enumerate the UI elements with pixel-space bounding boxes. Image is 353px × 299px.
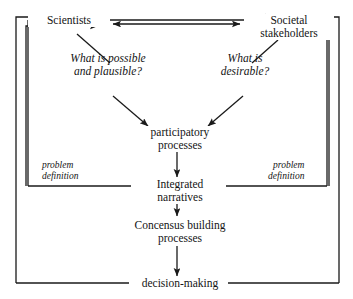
question-right-to-participatory-arrow	[208, 96, 243, 126]
label-problem-definition-left-line2: definition	[42, 171, 78, 181]
node-societal-stakeholders: Societal stakeholders	[244, 14, 334, 40]
node-participatory-line2: processes	[158, 139, 202, 151]
label-problem-definition-right: problem definition	[268, 160, 304, 182]
node-concensus-line1: Concensus building	[134, 219, 225, 231]
node-integrated-line1: Integrated	[157, 178, 204, 190]
label-problem-definition-left: problem definition	[42, 160, 78, 182]
question-left-to-participatory-arrow	[113, 96, 148, 126]
node-question-left-line1: What is possible	[70, 52, 145, 64]
diagram-canvas: Scientists Societal stakeholders What is…	[0, 0, 353, 299]
node-integrated-line2: narratives	[157, 191, 202, 203]
node-decision-making: decision-making	[132, 277, 228, 290]
node-societal-stakeholders-line1: Societal	[270, 14, 307, 26]
node-question-left-line2: and plausible?	[74, 65, 142, 77]
node-scientists: Scientists	[28, 14, 110, 27]
node-integrated-narratives: Integrated narratives	[134, 178, 226, 204]
node-concensus-line2: processes	[158, 232, 202, 244]
node-concensus-building-processes: Concensus building processes	[112, 219, 248, 245]
node-question-what-is-desirable: What is desirable?	[206, 52, 284, 78]
label-problem-definition-left-line1: problem	[42, 160, 73, 170]
node-question-right-line1: What is	[228, 52, 263, 64]
node-participatory-processes: participatory processes	[124, 126, 236, 152]
node-decision-making-label: decision-making	[142, 277, 219, 289]
node-scientists-label: Scientists	[47, 14, 91, 26]
node-question-what-is-possible: What is possible and plausible?	[56, 52, 160, 78]
label-problem-definition-right-line1: problem	[273, 160, 304, 170]
label-problem-definition-right-line2: definition	[268, 171, 304, 181]
node-participatory-line1: participatory	[151, 126, 210, 138]
node-societal-stakeholders-line2: stakeholders	[260, 27, 317, 39]
node-question-right-line2: desirable?	[221, 65, 270, 77]
